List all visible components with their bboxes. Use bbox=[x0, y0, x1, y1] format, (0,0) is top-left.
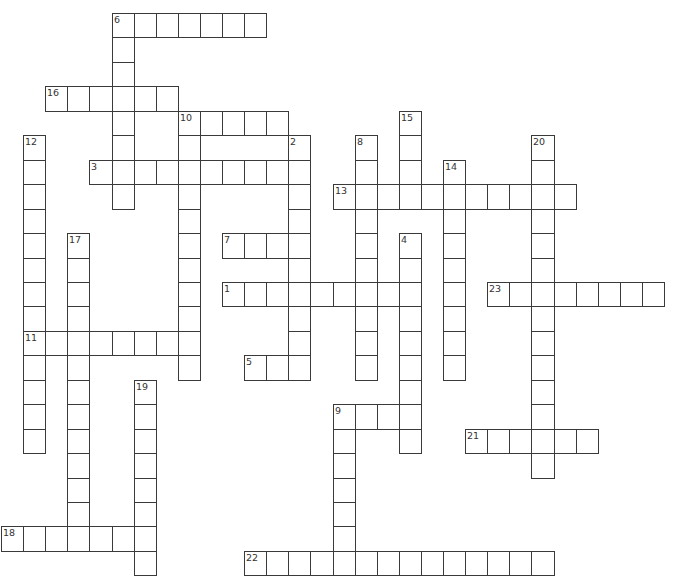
crossword-cell[interactable] bbox=[355, 404, 378, 430]
letter-input[interactable] bbox=[532, 356, 554, 380]
letter-input[interactable] bbox=[135, 454, 156, 478]
crossword-cell[interactable] bbox=[355, 551, 378, 576]
crossword-cell[interactable] bbox=[509, 551, 532, 576]
crossword-cell[interactable] bbox=[554, 282, 577, 307]
crossword-cell[interactable] bbox=[23, 355, 46, 381]
crossword-cell[interactable] bbox=[112, 526, 135, 552]
letter-input[interactable] bbox=[245, 283, 266, 306]
crossword-cell[interactable]: 18 bbox=[1, 526, 24, 552]
crossword-cell[interactable] bbox=[67, 502, 90, 527]
crossword-cell[interactable] bbox=[89, 526, 113, 552]
letter-input[interactable] bbox=[223, 14, 244, 37]
letter-input[interactable] bbox=[466, 430, 487, 453]
crossword-cell[interactable] bbox=[554, 184, 577, 210]
crossword-cell[interactable] bbox=[156, 13, 179, 38]
letter-input[interactable] bbox=[444, 552, 465, 575]
crossword-cell[interactable] bbox=[421, 184, 444, 210]
letter-input[interactable] bbox=[267, 161, 288, 184]
letter-input[interactable] bbox=[179, 283, 200, 306]
letter-input[interactable] bbox=[422, 552, 443, 575]
letter-input[interactable] bbox=[135, 14, 156, 37]
crossword-cell[interactable] bbox=[355, 331, 378, 356]
letter-input[interactable] bbox=[356, 234, 377, 258]
crossword-cell[interactable] bbox=[178, 258, 201, 283]
crossword-cell[interactable] bbox=[576, 429, 599, 454]
crossword-cell[interactable]: 23 bbox=[487, 282, 510, 307]
letter-input[interactable] bbox=[334, 283, 355, 306]
letter-input[interactable] bbox=[135, 479, 156, 502]
crossword-cell[interactable]: 22 bbox=[244, 551, 267, 576]
letter-input[interactable] bbox=[157, 87, 178, 111]
crossword-cell[interactable] bbox=[178, 184, 201, 210]
letter-input[interactable] bbox=[135, 503, 156, 526]
crossword-cell[interactable] bbox=[45, 331, 68, 356]
letter-input[interactable] bbox=[157, 14, 178, 37]
crossword-cell[interactable] bbox=[288, 306, 311, 332]
crossword-cell[interactable] bbox=[531, 306, 555, 332]
crossword-cell[interactable] bbox=[178, 306, 201, 332]
letter-input[interactable] bbox=[400, 283, 421, 306]
letter-input[interactable] bbox=[532, 552, 554, 575]
crossword-cell[interactable] bbox=[45, 526, 68, 552]
crossword-cell[interactable]: 10 bbox=[178, 111, 201, 136]
letter-input[interactable] bbox=[68, 332, 89, 355]
letter-input[interactable] bbox=[577, 283, 598, 306]
crossword-cell[interactable] bbox=[67, 526, 90, 552]
letter-input[interactable] bbox=[444, 185, 465, 209]
crossword-cell[interactable] bbox=[377, 404, 400, 430]
crossword-cell[interactable] bbox=[642, 282, 665, 307]
crossword-cell[interactable] bbox=[112, 160, 135, 185]
crossword-cell[interactable] bbox=[23, 526, 46, 552]
crossword-cell[interactable] bbox=[333, 282, 356, 307]
letter-input[interactable] bbox=[68, 307, 89, 331]
crossword-cell[interactable] bbox=[23, 429, 46, 454]
letter-input[interactable] bbox=[422, 185, 443, 209]
letter-input[interactable] bbox=[289, 356, 310, 380]
crossword-cell[interactable] bbox=[67, 429, 90, 454]
crossword-cell[interactable] bbox=[333, 478, 356, 503]
crossword-cell[interactable]: 8 bbox=[355, 135, 378, 161]
crossword-cell[interactable] bbox=[355, 233, 378, 259]
crossword-cell[interactable] bbox=[465, 184, 488, 210]
letter-input[interactable] bbox=[400, 112, 421, 135]
letter-input[interactable] bbox=[400, 381, 421, 404]
crossword-cell[interactable] bbox=[443, 355, 466, 381]
letter-input[interactable] bbox=[46, 332, 67, 355]
crossword-cell[interactable] bbox=[23, 233, 46, 259]
letter-input[interactable] bbox=[179, 136, 200, 160]
crossword-cell[interactable] bbox=[134, 502, 157, 527]
letter-input[interactable] bbox=[179, 259, 200, 282]
letter-input[interactable] bbox=[113, 63, 134, 86]
crossword-cell[interactable]: 13 bbox=[333, 184, 356, 210]
letter-input[interactable] bbox=[267, 552, 288, 575]
crossword-cell[interactable] bbox=[377, 184, 400, 210]
letter-input[interactable] bbox=[356, 283, 377, 306]
letter-input[interactable] bbox=[68, 381, 89, 404]
letter-input[interactable] bbox=[24, 527, 45, 551]
letter-input[interactable] bbox=[223, 161, 244, 184]
letter-input[interactable] bbox=[400, 136, 421, 160]
letter-input[interactable] bbox=[179, 307, 200, 331]
letter-input[interactable] bbox=[334, 430, 355, 453]
letter-input[interactable] bbox=[532, 332, 554, 355]
letter-input[interactable] bbox=[179, 332, 200, 355]
letter-input[interactable] bbox=[356, 185, 377, 209]
letter-input[interactable] bbox=[68, 234, 89, 258]
crossword-cell[interactable] bbox=[377, 551, 400, 576]
crossword-cell[interactable] bbox=[531, 209, 555, 234]
crossword-cell[interactable] bbox=[531, 429, 555, 454]
letter-input[interactable] bbox=[400, 185, 421, 209]
crossword-cell[interactable] bbox=[531, 160, 555, 185]
crossword-cell[interactable] bbox=[134, 160, 157, 185]
letter-input[interactable] bbox=[289, 283, 310, 306]
letter-input[interactable] bbox=[334, 552, 355, 575]
letter-input[interactable] bbox=[289, 259, 310, 282]
crossword-cell[interactable] bbox=[399, 258, 422, 283]
crossword-cell[interactable] bbox=[67, 355, 90, 381]
letter-input[interactable] bbox=[378, 552, 399, 575]
letter-input[interactable] bbox=[90, 87, 112, 111]
crossword-cell[interactable] bbox=[67, 478, 90, 503]
crossword-cell[interactable] bbox=[443, 233, 466, 259]
letter-input[interactable] bbox=[68, 356, 89, 380]
letter-input[interactable] bbox=[400, 405, 421, 429]
